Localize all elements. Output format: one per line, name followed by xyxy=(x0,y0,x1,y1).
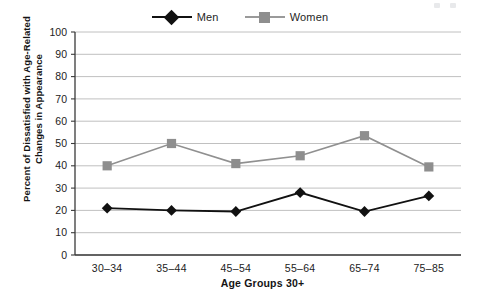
y-tick-label: 30 xyxy=(55,182,67,194)
x-tick-labels: 30–3435–4445–5455–6465–7475–85 xyxy=(92,262,444,274)
y-tick-label: 10 xyxy=(55,226,67,238)
data-point-men xyxy=(166,205,177,216)
data-point-men xyxy=(102,203,113,214)
y-tick-label: 80 xyxy=(55,70,67,82)
y-tick-label: 40 xyxy=(55,159,67,171)
data-point-men xyxy=(423,191,434,202)
series-men xyxy=(102,187,434,217)
y-tick-label: 50 xyxy=(55,137,67,149)
plot-svg: 1009080706050403020100 30–3435–4445–5455… xyxy=(0,0,480,304)
data-point-women xyxy=(424,162,433,171)
x-tick-label: 45–54 xyxy=(220,262,251,274)
x-tick-label: 30–34 xyxy=(92,262,123,274)
y-tick-label: 70 xyxy=(55,93,67,105)
data-point-men xyxy=(295,187,306,198)
data-point-women xyxy=(296,151,305,160)
plot-area: 1009080706050403020100 30–3435–4445–5455… xyxy=(0,0,480,304)
y-tick-labels: 1009080706050403020100 xyxy=(49,26,67,261)
data-point-women xyxy=(231,159,240,168)
data-point-men xyxy=(230,206,241,217)
data-point-men xyxy=(359,206,370,217)
y-tick-label: 0 xyxy=(61,249,67,261)
x-tick-label: 35–44 xyxy=(156,262,187,274)
y-tick-label: 60 xyxy=(55,115,67,127)
gridlines xyxy=(75,32,461,255)
x-tick-label: 75–85 xyxy=(413,262,444,274)
data-point-women xyxy=(360,131,369,140)
data-point-women xyxy=(167,139,176,148)
x-tick-label: 55–64 xyxy=(285,262,316,274)
y-tick-label: 100 xyxy=(49,26,67,38)
data-point-women xyxy=(103,161,112,170)
y-tick-label: 90 xyxy=(55,48,67,60)
x-tick-label: 65–74 xyxy=(349,262,380,274)
y-tick-label: 20 xyxy=(55,204,67,216)
line-chart: Men Women Percent of Dissatisfied with A… xyxy=(0,0,480,304)
